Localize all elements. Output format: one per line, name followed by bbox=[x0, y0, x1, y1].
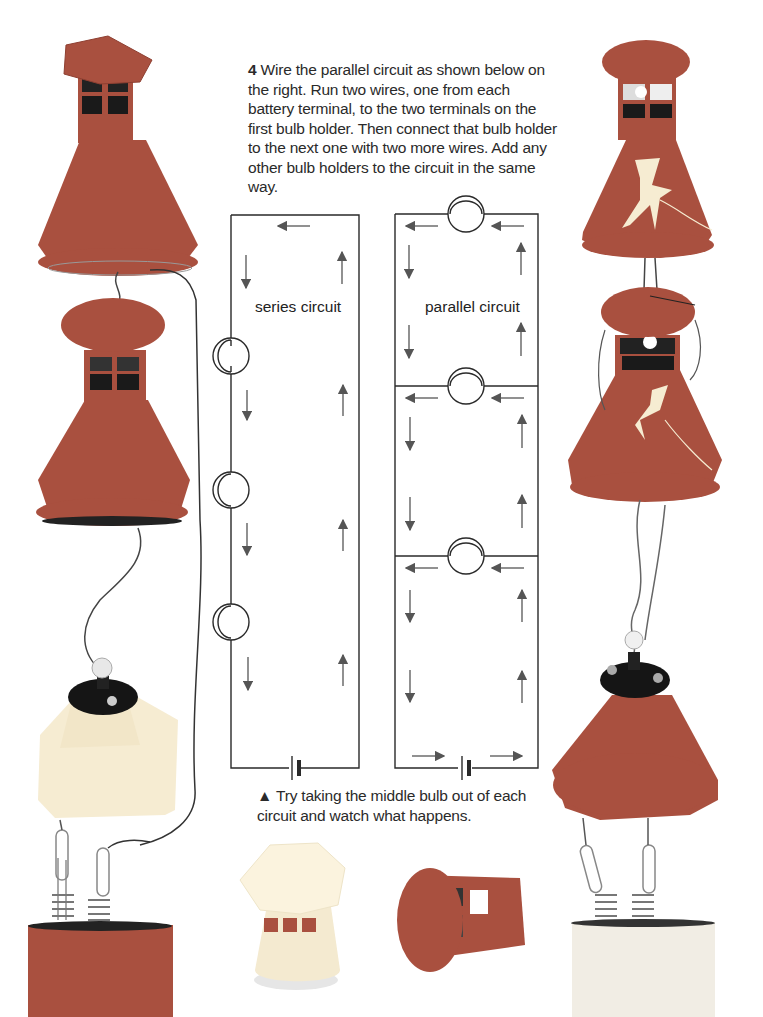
step-number: 4 bbox=[248, 61, 256, 78]
bulb-symbol bbox=[448, 368, 484, 404]
bulb-symbol bbox=[213, 472, 249, 508]
bulb-symbol bbox=[213, 604, 249, 640]
battery-symbol bbox=[458, 755, 472, 781]
battery-symbol bbox=[289, 755, 301, 781]
bulb-symbol bbox=[448, 196, 484, 232]
instruction-text: Wire the parallel circuit as shown below… bbox=[248, 61, 557, 195]
series-arrows bbox=[246, 226, 343, 690]
parallel-circuit-diagram bbox=[395, 196, 538, 781]
parallel-circuit-label: parallel circuit bbox=[425, 298, 520, 316]
caption-text: Try taking the middle bulb out of each c… bbox=[257, 787, 526, 824]
caption: ▲ Try taking the middle bulb out of each… bbox=[257, 786, 547, 825]
bulb-symbol bbox=[448, 538, 484, 574]
instruction-paragraph: 4 Wire the parallel circuit as shown bel… bbox=[248, 60, 558, 197]
series-circuit-label: series circuit bbox=[255, 298, 341, 316]
bulb-symbol bbox=[213, 338, 249, 374]
triangle-marker-icon: ▲ bbox=[257, 787, 272, 804]
